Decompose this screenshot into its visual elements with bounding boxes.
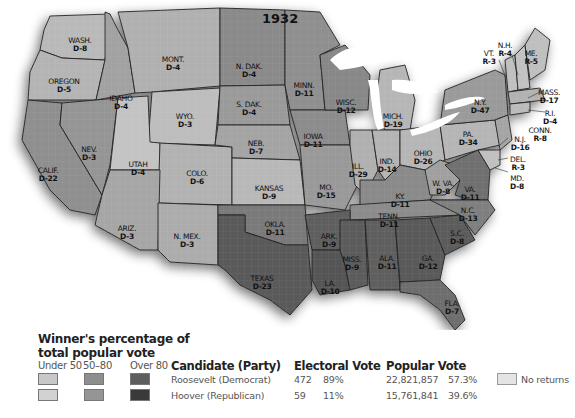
state-electoral-votes: D-12 xyxy=(336,107,357,115)
state-electoral-votes: D-11 xyxy=(391,201,410,209)
state-electoral-votes: D-9 xyxy=(342,264,361,272)
state-label: S. DAK.D-4 xyxy=(236,101,262,117)
state-label: IOWAD-11 xyxy=(303,133,322,149)
state-electoral-votes: D-4 xyxy=(162,64,185,72)
state-electoral-votes: D-7 xyxy=(248,148,265,156)
state-label: N.C.D-13 xyxy=(459,207,478,223)
state-electoral-votes: D-13 xyxy=(459,215,478,223)
state-label: ALA.D-11 xyxy=(378,255,397,271)
state-label: N.J.D-16 xyxy=(511,136,530,152)
state-label: OKLA.D-11 xyxy=(264,221,285,237)
header-candidate: Candidate (Party) xyxy=(171,359,281,373)
swatch-hoover-under-50 xyxy=(38,389,58,401)
state-label: CONN.R-8 xyxy=(528,127,551,143)
state-electoral-votes: D-4 xyxy=(236,71,262,79)
state-label: TEXASD-23 xyxy=(251,275,274,291)
state-label: N. DAK.D-4 xyxy=(236,63,262,79)
state-label: MASS.D-17 xyxy=(538,89,560,105)
state-label: FLA.D-7 xyxy=(445,300,460,316)
state-label: ARK.D-9 xyxy=(321,233,337,249)
no-returns-label: No returns xyxy=(521,374,569,385)
state-label: CALIF.D-22 xyxy=(38,167,58,183)
state-electoral-votes: D-12 xyxy=(419,263,438,271)
state-electoral-votes: D-34 xyxy=(459,139,478,147)
state-label: N.Y.D-47 xyxy=(471,99,490,115)
state-label: GA.D-12 xyxy=(419,255,438,271)
state-label: WASH.D-8 xyxy=(68,37,91,53)
election-map: 1932 WASH.D-8OREGOND-5IDAHOD-4MONT.D-4WY… xyxy=(0,0,575,330)
state-label: IDAHOD-4 xyxy=(109,95,132,111)
legend-col-under-50: Under 50 xyxy=(38,360,82,371)
state-electoral-votes: R-5 xyxy=(524,58,537,66)
state-electoral-votes: D-22 xyxy=(38,175,58,183)
state-label: MO.D-15 xyxy=(317,184,336,200)
state-label: LA.D-10 xyxy=(321,280,340,296)
state-label: MONT.D-4 xyxy=(162,56,185,72)
swatch-roosevelt-50-80 xyxy=(84,373,104,385)
legend-title: Winner's percentage of total popular vot… xyxy=(38,332,190,360)
state-label: KY.D-11 xyxy=(391,193,410,209)
swatch-roosevelt-under-50 xyxy=(38,373,58,385)
state-electoral-votes: D-11 xyxy=(294,90,315,98)
state-label: N.H.R-4 xyxy=(498,42,513,58)
state-electoral-votes: D-11 xyxy=(303,141,322,149)
popular-pct: 57.3% xyxy=(448,374,477,385)
state-electoral-votes: D-47 xyxy=(471,107,490,115)
state-electoral-votes: D-8 xyxy=(510,183,524,191)
state-electoral-votes: R-8 xyxy=(528,135,551,143)
state-electoral-votes: R-4 xyxy=(498,50,513,58)
state-label: WYO.D-3 xyxy=(176,113,194,129)
electoral-pct: 11% xyxy=(323,390,344,401)
state-label: NEV.D-3 xyxy=(81,146,97,162)
state-electoral-votes: D-4 xyxy=(543,118,557,126)
header-popular-vote: Popular Vote xyxy=(386,359,466,373)
state-label: R.I.D-4 xyxy=(543,110,557,126)
state-electoral-votes: D-3 xyxy=(118,233,137,241)
legend-col-over-80: Over 80 xyxy=(130,360,168,371)
state-label: OREGOND-5 xyxy=(48,78,79,94)
state-electoral-votes: D-3 xyxy=(173,241,200,249)
state-label: MICH.D-19 xyxy=(383,113,403,129)
state-electoral-votes: D-8 xyxy=(432,188,454,196)
state-electoral-votes: D-8 xyxy=(450,238,464,246)
swatch-hoover-over-80 xyxy=(130,389,150,401)
swatch-roosevelt-over-80 xyxy=(130,373,150,385)
state-electoral-votes: D-9 xyxy=(321,241,337,249)
state-electoral-votes: D-7 xyxy=(445,308,460,316)
state-electoral-votes: D-17 xyxy=(538,97,560,105)
swatch-no-returns xyxy=(497,373,517,385)
electoral-pct: 89% xyxy=(323,374,344,385)
state-electoral-votes: D-4 xyxy=(109,103,132,111)
state-label: OHIOD-26 xyxy=(414,150,433,166)
electoral-votes: 59 xyxy=(294,390,306,401)
state-label: NEB.D-7 xyxy=(248,140,265,156)
state-electoral-votes: D-4 xyxy=(236,109,262,117)
state-electoral-votes: D-3 xyxy=(176,121,194,129)
header-electoral-vote: Electoral Vote xyxy=(294,359,380,373)
state-electoral-votes: D-11 xyxy=(378,221,399,229)
state-label: TENN.D-11 xyxy=(378,213,399,229)
map-title: 1932 xyxy=(262,11,298,26)
state-electoral-votes: D-16 xyxy=(511,144,530,152)
state-label: ME.R-5 xyxy=(524,50,537,66)
candidate-name: Roosevelt (Democrat) xyxy=(171,374,271,385)
state-electoral-votes: D-9 xyxy=(255,193,284,201)
state-electoral-votes: D-15 xyxy=(317,192,336,200)
state-electoral-votes: D-5 xyxy=(48,86,79,94)
legend-title-line1: Winner's percentage of xyxy=(38,332,190,346)
state-label: DEL.R-3 xyxy=(510,156,526,172)
state-label: ARIZ.D-3 xyxy=(118,225,137,241)
legend-col-50-80: 50–80 xyxy=(83,360,112,371)
state-electoral-votes: D-11 xyxy=(378,263,397,271)
state-label: PA.D-34 xyxy=(459,131,478,147)
state-label: MINN.D-11 xyxy=(294,82,315,98)
state-electoral-votes: D-8 xyxy=(68,45,91,53)
state-electoral-votes: D-19 xyxy=(383,121,403,129)
popular-votes: 22,821,857 xyxy=(386,374,438,385)
electoral-votes: 472 xyxy=(294,374,312,385)
state-label: N. MEX.D-3 xyxy=(173,233,200,249)
state-electoral-votes: D-3 xyxy=(81,154,97,162)
state-electoral-votes: D-6 xyxy=(186,178,208,186)
state-label: ILL.D-29 xyxy=(349,163,368,179)
swatch-hoover-50-80 xyxy=(84,389,104,401)
